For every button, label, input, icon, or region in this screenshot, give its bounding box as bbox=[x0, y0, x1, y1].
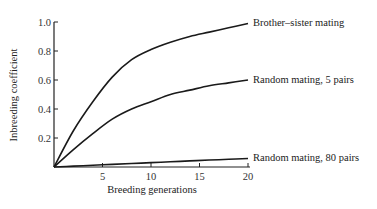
x-tick-label: 5 bbox=[100, 171, 105, 182]
series-label: Random mating, 80 pairs bbox=[253, 152, 359, 163]
series-line bbox=[54, 80, 248, 167]
y-tick-label: 0.4 bbox=[38, 104, 52, 115]
series-label: Random mating, 5 pairs bbox=[253, 74, 354, 85]
x-ticks: 5101520 bbox=[100, 163, 253, 182]
inbreeding-chart: 0.20.40.60.81.0 5101520 Brother–sister m… bbox=[0, 0, 377, 209]
series-labels: Brother–sister matingRandom mating, 5 pa… bbox=[253, 17, 359, 163]
x-tick-label: 20 bbox=[243, 171, 254, 182]
y-axis-label: Inbreeding coefficient bbox=[8, 49, 19, 142]
series-label: Brother–sister mating bbox=[253, 17, 345, 28]
x-tick-label: 10 bbox=[146, 171, 157, 182]
y-tick-label: 1.0 bbox=[38, 17, 51, 28]
y-tick-label: 0.8 bbox=[38, 46, 51, 57]
axes bbox=[54, 22, 250, 167]
y-tick-label: 0.2 bbox=[38, 133, 51, 144]
x-axis-label: Breeding generations bbox=[107, 184, 197, 195]
y-tick-label: 0.6 bbox=[38, 75, 51, 86]
y-ticks: 0.20.40.60.81.0 bbox=[38, 17, 58, 144]
x-tick-label: 15 bbox=[194, 171, 205, 182]
series-line bbox=[54, 23, 248, 167]
series-lines bbox=[54, 23, 248, 167]
